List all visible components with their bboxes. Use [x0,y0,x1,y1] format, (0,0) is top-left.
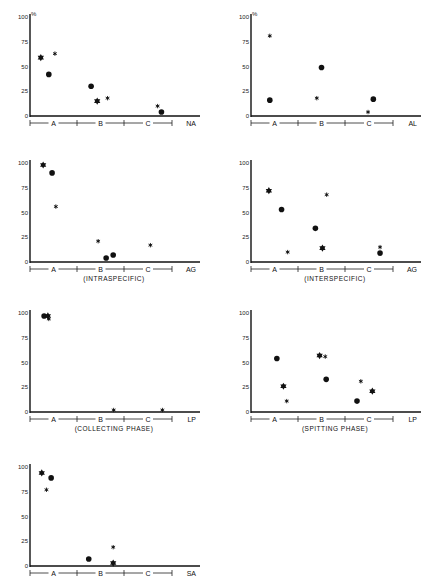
svg-text:C: C [366,416,371,423]
svg-text:A: A [272,416,277,423]
axes [30,310,200,413]
svg-text:50: 50 [242,360,249,366]
asterisk-marker [54,204,58,208]
data-points [40,161,152,260]
dot-marker [323,377,329,383]
svg-text:A: A [272,266,277,273]
svg-text:0: 0 [25,259,29,265]
star-marker [317,352,323,359]
svg-text:B: B [98,416,103,423]
asterisk-marker [366,110,370,114]
dot-marker [159,109,165,115]
star-marker [39,469,45,476]
svg-text:A: A [51,120,56,127]
svg-text:50: 50 [21,210,28,216]
y-tick-labels: 0255075100% [239,11,258,119]
asterisk-marker [323,354,327,358]
svg-text:0: 0 [25,409,29,415]
data-points [266,187,383,256]
panel-caption: (INTERSPECIFIC) [304,275,365,283]
svg-text:25: 25 [21,538,28,544]
axes [30,14,200,117]
asterisk-marker [53,51,57,55]
svg-text:100: 100 [18,160,29,166]
svg-text:25: 25 [21,384,28,390]
dot-marker [110,252,116,258]
chart-panel-lp-collecting: 0255075100ABCLP(COLLECTING PHASE) [12,302,222,442]
axes [30,464,200,567]
y-tick-labels: 0255075100 [18,160,29,265]
asterisk-marker [106,96,110,100]
y-tick-labels: 0255075100% [18,11,37,119]
asterisk-marker [111,545,115,549]
star-marker [280,383,286,390]
scatter-plot: 0255075100ABCAG(INTERSPECIFIC) [233,152,433,287]
star-marker [38,54,44,61]
svg-text:%: % [252,11,258,17]
asterisk-marker [325,192,329,196]
chart-panel-al: 0255075100%ABCAL [233,6,435,146]
svg-text:100: 100 [239,310,250,316]
svg-text:75: 75 [242,185,249,191]
y-tick-labels: 0255075100 [18,464,29,569]
svg-text:25: 25 [242,88,249,94]
asterisk-marker [268,34,272,38]
svg-text:75: 75 [242,335,249,341]
panel-code-label: LP [408,416,417,423]
dot-marker [354,398,360,404]
asterisk-marker [286,250,290,254]
asterisk-marker [148,243,152,247]
svg-text:0: 0 [246,409,250,415]
svg-text:A: A [272,120,277,127]
y-tick-labels: 0255075100 [18,310,29,415]
svg-text:B: B [319,416,324,423]
svg-text:0: 0 [246,113,250,119]
svg-text:75: 75 [21,489,28,495]
svg-text:B: B [98,266,103,273]
asterisk-marker [45,488,49,492]
star-marker [369,388,375,395]
data-points [41,312,164,412]
svg-text:A: A [51,266,56,273]
star-marker [94,98,100,105]
svg-text:%: % [31,11,37,17]
dot-marker [88,84,94,90]
svg-text:C: C [145,266,150,273]
svg-text:100: 100 [18,464,29,470]
svg-text:50: 50 [242,64,249,70]
axes [251,14,421,117]
panel-code-label: NA [186,120,196,127]
svg-text:C: C [366,120,371,127]
svg-text:25: 25 [242,234,249,240]
panel-caption: (SPITTING PHASE) [302,425,368,433]
y-tick-labels: 0255075100 [239,160,250,265]
svg-text:B: B [98,120,103,127]
asterisk-marker [285,399,289,403]
chart-panel-na: 0255075100%ABCNA [12,6,222,146]
svg-text:50: 50 [21,360,28,366]
dot-marker [274,356,280,362]
scatter-plot: 0255075100ABCLP(COLLECTING PHASE) [12,302,212,437]
dot-marker [377,250,383,256]
svg-text:B: B [319,266,324,273]
svg-text:A: A [51,416,56,423]
asterisk-marker [96,239,100,243]
axes [251,310,421,413]
dot-marker [267,97,273,103]
axes [30,160,200,263]
panel-code-label: AG [186,266,196,273]
star-marker [319,245,325,252]
dot-marker [279,207,285,213]
chart-panel-lp-spitting: 0255075100ABCLP(SPITTING PHASE) [233,302,435,442]
svg-text:C: C [145,120,150,127]
dot-marker [103,255,109,261]
svg-text:0: 0 [25,563,29,569]
chart-panel-ag-intraspecific: 0255075100ABCAG(INTRASPECIFIC) [12,152,222,292]
asterisk-marker [315,96,319,100]
panel-code-label: AG [407,266,417,273]
svg-text:100: 100 [18,14,29,20]
svg-text:100: 100 [239,14,250,20]
chart-panel-sa: 0255075100ABCSA [12,456,222,586]
star-marker [266,187,272,194]
dot-marker [313,226,319,232]
